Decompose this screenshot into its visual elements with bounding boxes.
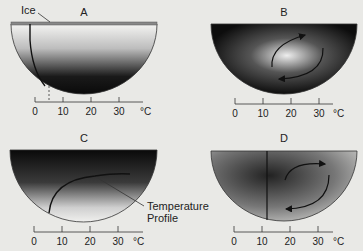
svg-text:10: 10 xyxy=(256,236,268,247)
axis-b: 0 10 20 30 °C xyxy=(232,98,344,119)
panel-d-label: D xyxy=(280,132,288,144)
svg-text:°C: °C xyxy=(133,236,144,247)
ice-label: Ice xyxy=(21,4,36,16)
svg-text:0: 0 xyxy=(31,236,37,247)
ice-pointer xyxy=(38,13,50,22)
svg-text:10: 10 xyxy=(56,236,68,247)
axis-a: 0 10 20 30 °C xyxy=(32,97,151,117)
svg-text:30: 30 xyxy=(312,236,324,247)
svg-text:20: 20 xyxy=(284,236,296,247)
svg-text:30: 30 xyxy=(313,108,325,119)
panel-c: C Temperature Profile 0 10 20 30 °C xyxy=(10,132,209,247)
svg-text:0: 0 xyxy=(231,236,237,247)
panel-a: A Ice 0 10 20 30 °C xyxy=(11,4,157,117)
svg-text:°C: °C xyxy=(333,108,344,119)
svg-text:20: 20 xyxy=(84,236,96,247)
svg-text:30: 30 xyxy=(112,236,124,247)
svg-text:10: 10 xyxy=(57,106,69,117)
svg-text:°C: °C xyxy=(140,106,151,117)
svg-text:°C: °C xyxy=(333,236,344,247)
temperature-label: Temperature xyxy=(147,200,209,212)
panel-b-label: B xyxy=(280,6,287,18)
panel-c-label: C xyxy=(80,132,88,144)
lake-temperature-diagram: A Ice 0 10 20 30 °C B xyxy=(0,0,363,251)
panel-d: D 0 10 20 30 °C xyxy=(211,132,357,247)
svg-text:20: 20 xyxy=(85,106,97,117)
lake-basin-b xyxy=(211,24,357,94)
lake-basin-d xyxy=(211,151,357,221)
panel-a-label: A xyxy=(80,6,88,18)
panel-b: B 0 10 20 30 °C xyxy=(211,6,357,119)
lake-basin-c xyxy=(10,150,157,222)
axis-c: 0 10 20 30 °C xyxy=(31,226,144,247)
svg-text:0: 0 xyxy=(32,106,38,117)
axis-d: 0 10 20 30 °C xyxy=(231,226,344,247)
svg-text:10: 10 xyxy=(257,108,269,119)
svg-text:20: 20 xyxy=(285,108,297,119)
svg-text:0: 0 xyxy=(232,108,238,119)
svg-text:30: 30 xyxy=(113,106,125,117)
profile-label: Profile xyxy=(147,212,178,224)
ice-layer xyxy=(11,22,157,25)
